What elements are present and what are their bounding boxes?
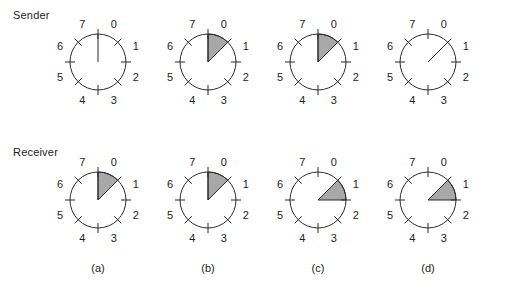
clock-sender-a: 01234567: [43, 7, 153, 117]
clock-sector-label-2: 2: [243, 71, 249, 83]
clock-sector-label-3: 3: [441, 232, 447, 244]
clock-wedge: [208, 172, 228, 200]
panel-caption-d: (d): [408, 262, 448, 274]
clock-sector-label-0: 0: [331, 18, 337, 30]
clock-sector-label-5: 5: [277, 209, 283, 221]
clock-sector-label-0: 0: [111, 156, 117, 168]
clock-sector-label-2: 2: [133, 71, 139, 83]
clock-sector-label-5: 5: [57, 209, 63, 221]
clock-sector-label-4: 4: [79, 232, 85, 244]
clock-sector-label-6: 6: [167, 178, 173, 190]
clock-sector-label-6: 6: [387, 178, 393, 190]
clock-wedge: [208, 34, 228, 62]
panel-caption-a: (a): [78, 262, 118, 274]
clock-sector-label-0: 0: [221, 156, 227, 168]
clock-sector-label-2: 2: [353, 209, 359, 221]
clock-sector-label-7: 7: [79, 156, 85, 168]
clock-sector-label-3: 3: [221, 94, 227, 106]
clock-sector-label-1: 1: [133, 40, 139, 52]
clock-sender-b: 01234567: [153, 7, 263, 117]
clock-sector-label-3: 3: [221, 232, 227, 244]
clock-sector-label-5: 5: [167, 209, 173, 221]
panel-caption-c: (c): [298, 262, 338, 274]
clock-sector-label-4: 4: [409, 232, 415, 244]
clock-sector-label-6: 6: [277, 40, 283, 52]
clock-sector-label-4: 4: [189, 232, 195, 244]
clock-sector-label-1: 1: [463, 40, 469, 52]
clock-sector-label-4: 4: [299, 232, 305, 244]
panel-caption-b: (b): [188, 262, 228, 274]
clock-wedge: [318, 34, 338, 62]
clock-sector-label-7: 7: [299, 18, 305, 30]
clock-wedge: [98, 172, 118, 200]
clock-sector-label-4: 4: [409, 94, 415, 106]
clock-sender-c: 01234567: [263, 7, 373, 117]
clock-sector-label-0: 0: [441, 156, 447, 168]
clock-sector-label-2: 2: [133, 209, 139, 221]
clock-sector-label-1: 1: [243, 178, 249, 190]
clock-wedge: [428, 180, 456, 200]
clock-sector-label-5: 5: [167, 71, 173, 83]
clock-sector-label-1: 1: [353, 178, 359, 190]
clock-sector-label-0: 0: [221, 18, 227, 30]
clock-sector-label-2: 2: [243, 209, 249, 221]
clock-sector-label-7: 7: [79, 18, 85, 30]
clock-receiver-a: 01234567: [43, 145, 153, 255]
clock-sector-label-4: 4: [79, 94, 85, 106]
clock-receiver-c: 01234567: [263, 145, 373, 255]
clock-sector-label-4: 4: [189, 94, 195, 106]
clock-sector-label-0: 0: [441, 18, 447, 30]
clock-sector-label-6: 6: [57, 178, 63, 190]
clock-sector-label-7: 7: [189, 156, 195, 168]
clock-receiver-b: 01234567: [153, 145, 263, 255]
clock-sector-label-2: 2: [463, 71, 469, 83]
clock-sector-label-6: 6: [57, 40, 63, 52]
clock-hand: [428, 42, 448, 62]
clock-sector-label-6: 6: [167, 40, 173, 52]
clock-sector-label-7: 7: [189, 18, 195, 30]
clock-sector-label-0: 0: [111, 18, 117, 30]
clock-sector-label-7: 7: [409, 18, 415, 30]
clock-sector-label-2: 2: [463, 209, 469, 221]
clock-sector-label-7: 7: [409, 156, 415, 168]
clock-sector-label-5: 5: [387, 209, 393, 221]
clock-sector-label-5: 5: [57, 71, 63, 83]
clock-sector-label-5: 5: [277, 71, 283, 83]
clock-sector-label-2: 2: [353, 71, 359, 83]
clock-sector-label-7: 7: [299, 156, 305, 168]
clock-sector-label-6: 6: [277, 178, 283, 190]
clock-sector-label-1: 1: [353, 40, 359, 52]
clock-sector-label-3: 3: [111, 232, 117, 244]
clock-sector-label-3: 3: [331, 232, 337, 244]
clock-sector-label-1: 1: [133, 178, 139, 190]
clock-sector-label-0: 0: [331, 156, 337, 168]
clock-receiver-d: 01234567: [373, 145, 483, 255]
clock-sector-label-1: 1: [243, 40, 249, 52]
clock-diagram-figure: Sender Receiver 012345670123456701234567…: [0, 0, 510, 289]
clock-wedge: [318, 180, 346, 200]
clock-sector-label-3: 3: [111, 94, 117, 106]
clock-sector-label-5: 5: [387, 71, 393, 83]
clock-sector-label-6: 6: [387, 40, 393, 52]
clock-sector-label-3: 3: [331, 94, 337, 106]
clock-sector-label-1: 1: [463, 178, 469, 190]
clock-sender-d: 01234567: [373, 7, 483, 117]
clock-sector-label-3: 3: [441, 94, 447, 106]
clock-sector-label-4: 4: [299, 94, 305, 106]
